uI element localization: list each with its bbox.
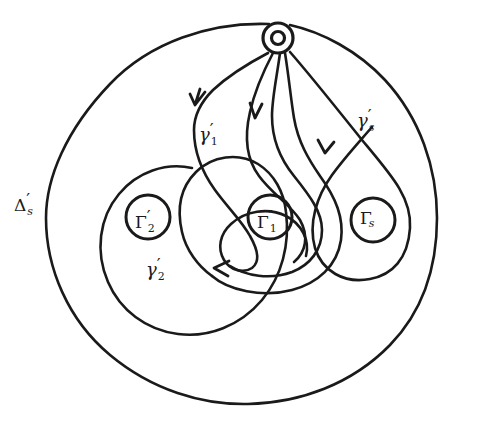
gamma-1-glyph: γ [199,124,210,145]
gamma-s-glyph: γ [357,110,368,131]
label-gamma-prime-s: γ′s [357,107,374,133]
arrowhead-gamma-2 [214,261,229,276]
label-delta-prime-s: Δ′s [14,191,33,217]
gamma-s-subscript: s [369,121,375,134]
arrowhead-middle-strand [250,103,262,118]
outer-boundary-group [46,24,437,404]
cap-gamma-1-subscript: 1 [270,222,277,235]
label-gamma-prime-2: γ′2 [146,256,165,282]
gamma-2-subscript: 2 [158,270,165,283]
gamma-1-subscript: 1 [211,135,218,148]
figure-canvas: Δ′s γ′1 γ′s γ′2 Γ′2 Γ′1 Γs [0,0,482,423]
delta-glyph: Δ [14,195,26,215]
label-gamma-cap-s: Γs [360,210,374,229]
cap-gamma-2-subscript: 2 [148,222,155,235]
basepoint-group [263,23,293,53]
arrowhead-gamma-s [318,140,334,153]
cap-gamma-2-glyph: Γ [135,212,147,232]
outer-boundary-path [46,24,437,404]
cap-gamma-1-glyph: Γ [257,212,269,232]
basepoint-inner-circle [272,32,285,45]
label-gamma-prime-1: γ′1 [199,121,218,147]
basepoint-outer-circle [263,23,293,53]
inner-strand-3-path [230,53,322,276]
gamma-prime-2-path [100,157,287,335]
inner-strand-3-group [230,53,322,276]
topology-diagram-svg [0,0,482,423]
label-gamma-cap-prime-2: Γ′2 [135,208,155,234]
label-gamma-cap-prime-1: Γ′1 [257,208,277,234]
cap-gamma-s-subscript: s [369,217,375,230]
arrowheads-group [190,89,334,276]
gamma-2-glyph: γ [146,259,157,280]
delta-subscript: s [27,205,33,218]
gamma-prime-2-curve-group [100,157,287,335]
